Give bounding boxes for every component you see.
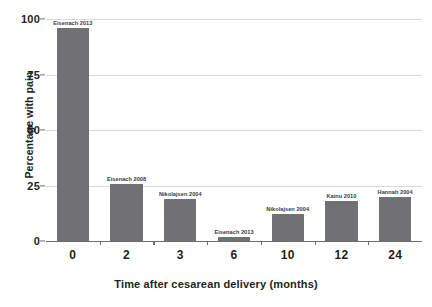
y-tick-mark-0 — [40, 240, 45, 241]
gridline-100 — [46, 19, 422, 20]
bar-3-months — [164, 199, 196, 241]
x-tick-mark-0 — [100, 241, 101, 245]
bar-0-months — [57, 28, 89, 241]
gridline-25 — [46, 186, 422, 187]
x-tick-label-0: 0 — [69, 248, 76, 262]
bar-label-12-months: Kainu 2010 — [326, 193, 356, 199]
y-tick-label-100: 100 — [6, 13, 40, 25]
gridline-0 — [46, 241, 422, 242]
bar-24-months — [379, 197, 411, 241]
plot-area: Eisenach 2013Eisenach 2008Nikolajsen 200… — [46, 19, 422, 241]
y-tick-mark-25 — [40, 185, 45, 186]
bar-6-months — [218, 237, 250, 241]
x-axis-title: Time after cesarean delivery (months) — [0, 278, 432, 290]
x-tick-mark-2 — [207, 241, 208, 245]
x-tick-mark-3 — [261, 241, 262, 245]
bar-label-2-months: Eisenach 2008 — [107, 176, 146, 182]
bar-label-24-months: Hannah 2004 — [378, 189, 413, 195]
bar-10-months — [272, 214, 304, 241]
y-tick-label-25: 25 — [6, 180, 40, 192]
bar-label-0-months: Eisenach 2013 — [53, 20, 92, 26]
x-tick-mark-5 — [368, 241, 369, 245]
y-tick-mark-50 — [40, 129, 45, 130]
y-tick-label-50: 50 — [6, 124, 40, 136]
x-tick-label-3: 3 — [177, 248, 184, 262]
bar-12-months — [325, 201, 357, 241]
y-tick-mark-75 — [40, 74, 45, 75]
bar-chart: Percentage with pain 0255075100 Eisenach… — [0, 0, 432, 307]
gridline-50 — [46, 130, 422, 131]
x-tick-label-12: 12 — [334, 248, 348, 262]
y-tick-label-0: 0 — [6, 235, 40, 247]
x-tick-label-24: 24 — [388, 248, 402, 262]
y-tick-label-75: 75 — [6, 69, 40, 81]
x-tick-mark-4 — [315, 241, 316, 245]
x-tick-label-10: 10 — [281, 248, 295, 262]
gridline-75 — [46, 75, 422, 76]
bar-label-3-months: Nikolajsen 2004 — [159, 191, 202, 197]
x-tick-mark-1 — [153, 241, 154, 245]
x-tick-label-6: 6 — [231, 248, 238, 262]
bar-label-10-months: Nikolajsen 2004 — [266, 206, 309, 212]
bar-2-months — [110, 184, 142, 241]
x-tick-label-2: 2 — [123, 248, 130, 262]
y-tick-mark-100 — [40, 18, 45, 19]
bar-label-6-months: Eisenach 2013 — [214, 229, 253, 235]
